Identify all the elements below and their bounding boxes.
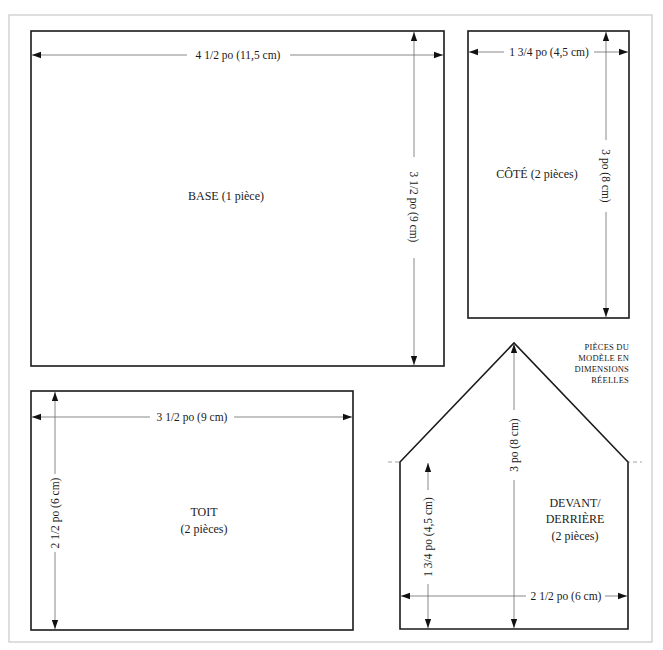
- cote-title: CÔTÉ (2 pièces): [496, 167, 577, 181]
- note-line2: MODÈLE EN: [578, 353, 629, 363]
- cote-width-label: 1 3/4 po (4,5 cm): [509, 46, 589, 59]
- piece-devant-derriere: 3 po (8 cm) 1 3/4 po (4,5 cm) 2 1/2 po (…: [388, 343, 642, 629]
- pattern-sheet: 4 1/2 po (11,5 cm) 3 1/2 po (9 cm) BASE …: [0, 0, 663, 650]
- toit-height-label: 2 1/2 po (6 cm): [49, 477, 62, 548]
- devant-wall-height-label: 1 3/4 po (4,5 cm): [422, 497, 435, 577]
- piece-toit: 3 1/2 po (9 cm) 2 1/2 po (6 cm) TOIT (2 …: [31, 391, 353, 630]
- note-line3: DIMENSIONS: [575, 364, 629, 374]
- base-height-label: 3 1/2 po (9 cm): [407, 172, 420, 243]
- note-line4: RÉELLES: [591, 375, 629, 385]
- piece-base: 4 1/2 po (11,5 cm) 3 1/2 po (9 cm) BASE …: [31, 31, 444, 366]
- piece-cote: 1 3/4 po (4,5 cm) 3 po (8 cm) CÔTÉ (2 pi…: [468, 31, 629, 318]
- toit-title-line1: TOIT: [190, 505, 218, 519]
- devant-title-line3: (2 pièces): [552, 529, 599, 543]
- devant-title-line2: DERRIÈRE: [546, 512, 605, 526]
- toit-title-line2: (2 pièces): [181, 522, 228, 536]
- note-line1: PIÈCES DU: [584, 342, 629, 352]
- base-title: BASE (1 pièce): [188, 189, 264, 203]
- toit-width-label: 3 1/2 po (9 cm): [157, 411, 228, 424]
- cote-height-label: 3 po (8 cm): [599, 149, 612, 203]
- base-width-label: 4 1/2 po (11,5 cm): [196, 49, 281, 62]
- devant-width-label: 2 1/2 po (6 cm): [531, 590, 602, 603]
- actual-size-note: PIÈCES DU MODÈLE EN DIMENSIONS RÉELLES: [575, 342, 629, 385]
- devant-total-height-label: 3 po (8 cm): [508, 418, 521, 472]
- devant-title-line1: DEVANT/: [549, 496, 601, 510]
